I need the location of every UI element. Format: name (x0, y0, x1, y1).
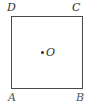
geometry-figure: D C A B O (0, 0, 94, 110)
vertex-label-c: C (72, 2, 80, 13)
vertex-label-a: A (8, 92, 16, 103)
vertex-label-b: B (76, 92, 84, 103)
center-point-group: O (41, 47, 55, 58)
vertex-label-d: D (7, 2, 16, 13)
center-label-o: O (46, 47, 55, 58)
center-dot-icon (41, 51, 44, 54)
